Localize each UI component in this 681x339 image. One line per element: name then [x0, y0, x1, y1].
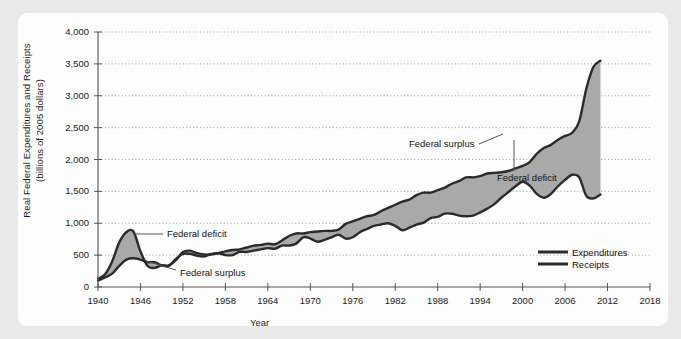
x-tick-2018: 2018 — [630, 295, 670, 306]
x-tick-2012: 2012 — [588, 295, 628, 306]
y-tick-1500: 1,500 — [45, 185, 89, 196]
plot-area — [0, 0, 681, 339]
annotation-federal-deficit-late: Federal deficit — [497, 172, 557, 183]
x-tick-2006: 2006 — [545, 295, 585, 306]
x-tick-1970: 1970 — [290, 295, 330, 306]
legend-swatches — [538, 252, 568, 264]
legend-label-expenditures: Expenditures — [572, 247, 627, 258]
y-axis-label-line1: Real Federal Expenditures and Receipts — [21, 43, 32, 217]
y-tick-0: 0 — [45, 281, 89, 292]
annotation-federal-surplus-late: Federal surplus — [409, 138, 474, 149]
y-tick-1000: 1,000 — [45, 217, 89, 228]
x-tick-1994: 1994 — [460, 295, 500, 306]
x-tick-1988: 1988 — [418, 295, 458, 306]
x-tick-1964: 1964 — [248, 295, 288, 306]
y-axis-label: Real Federal Expenditures and Receipts (… — [21, 16, 46, 246]
y-tick-2000: 2,000 — [45, 154, 89, 165]
y-axis-label-line2: (billions of 2005 dollars) — [33, 79, 44, 182]
x-tick-1952: 1952 — [163, 295, 203, 306]
y-tick-4000: 4,000 — [45, 26, 89, 37]
x-tick-1982: 1982 — [375, 295, 415, 306]
x-tick-1946: 1946 — [120, 295, 160, 306]
annotation-federal-surplus-early: Federal surplus — [180, 267, 245, 278]
x-tick-1976: 1976 — [333, 295, 373, 306]
x-tick-2000: 2000 — [503, 295, 543, 306]
y-tick-2500: 2,500 — [45, 122, 89, 133]
x-tick-1958: 1958 — [205, 295, 245, 306]
y-tick-3000: 3,000 — [45, 90, 89, 101]
y-tick-3500: 3,500 — [45, 58, 89, 69]
x-axis-label: Year — [250, 317, 269, 328]
annotation-federal-deficit-early: Federal deficit — [167, 228, 227, 239]
federal-budget-chart: Real Federal Expenditures and Receipts (… — [0, 0, 681, 339]
x-tick-1940: 1940 — [78, 295, 118, 306]
deficit-surplus-fill — [98, 61, 600, 281]
y-tick-500: 500 — [45, 249, 89, 260]
legend-label-receipts: Receipts — [572, 259, 609, 270]
